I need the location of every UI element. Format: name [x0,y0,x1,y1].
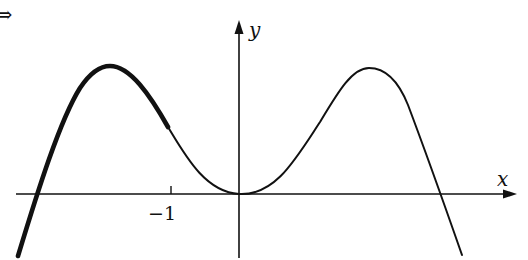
y-axis-arrowhead-icon [235,20,244,34]
highlighted-curve-segment [18,66,168,256]
arrow-marker-icon: ⇒ [0,2,12,27]
x-axis-label: x [497,167,508,191]
y-axis-label: y [248,18,261,42]
tick-label-minus-one: −1 [148,202,176,224]
function-graph: ⇒ x y −1 [0,0,528,260]
function-curve [18,66,462,256]
